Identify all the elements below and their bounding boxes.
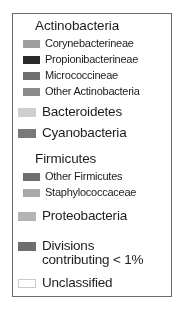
legend-list: ActinobacteriaCorynebacterineaePropionib… <box>13 14 171 296</box>
legend-item-corynebacterineae[interactable]: Corynebacterineae <box>13 37 171 50</box>
legend-swatch-staphylococcaceae <box>23 189 40 197</box>
legend-item-firmicutes[interactable]: Firmicutes <box>13 151 171 166</box>
legend-label-firmicutes: Firmicutes <box>35 151 96 166</box>
legend-label-staphylococcaceae: Staphylococcaceae <box>45 186 136 199</box>
legend-item-cyanobacteria[interactable]: Cyanobacteria <box>13 126 171 140</box>
legend-swatch-proteobacteria <box>18 212 36 221</box>
legend-label-cyanobacteria: Cyanobacteria <box>42 126 126 140</box>
legend-label-divisions-under-1pct-line2: contributing < 1% <box>42 253 143 267</box>
legend-label-propionibacterineae: Propionibacterineae <box>45 53 138 66</box>
legend-swatch-micrococcineae <box>23 72 40 80</box>
legend-label-other-actinobacteria: Other Actinobacteria <box>45 85 140 98</box>
legend-label-divisions-under-1pct: Divisionscontributing < 1% <box>42 239 143 267</box>
legend-label-proteobacteria: Proteobacteria <box>42 209 127 223</box>
legend-item-micrococcineae[interactable]: Micrococcineae <box>13 69 171 82</box>
legend-swatch-bacteroidetes <box>18 108 36 117</box>
legend-item-proteobacteria[interactable]: Proteobacteria <box>13 209 171 223</box>
legend-swatch-propionibacterineae <box>23 56 40 64</box>
legend-label-corynebacterineae: Corynebacterineae <box>45 37 134 50</box>
legend-label-other-firmicutes: Other Firmicutes <box>45 170 122 183</box>
legend-item-unclassified[interactable]: Unclassified <box>13 276 171 290</box>
legend-label-actinobacteria: Actinobacteria <box>35 18 119 33</box>
legend-item-bacteroidetes[interactable]: Bacteroidetes <box>13 105 171 119</box>
legend-label-divisions-under-1pct-line1: Divisions <box>42 238 94 253</box>
legend-swatch-corynebacterineae <box>23 40 40 48</box>
legend-item-other-actinobacteria[interactable]: Other Actinobacteria <box>13 85 171 98</box>
legend-swatch-divisions-under-1pct <box>18 242 36 251</box>
legend-item-actinobacteria[interactable]: Actinobacteria <box>13 18 171 33</box>
legend-label-unclassified: Unclassified <box>42 276 112 290</box>
legend-swatch-other-actinobacteria <box>23 88 40 96</box>
legend-item-staphylococcaceae[interactable]: Staphylococcaceae <box>13 186 171 199</box>
legend-swatch-other-firmicutes <box>23 173 40 181</box>
legend-box: ActinobacteriaCorynebacterineaePropionib… <box>12 13 172 297</box>
legend-label-bacteroidetes: Bacteroidetes <box>42 105 122 119</box>
legend-swatch-cyanobacteria <box>18 129 36 138</box>
legend-item-propionibacterineae[interactable]: Propionibacterineae <box>13 53 171 66</box>
legend-item-other-firmicutes[interactable]: Other Firmicutes <box>13 170 171 183</box>
legend-swatch-unclassified <box>18 279 36 288</box>
legend-label-micrococcineae: Micrococcineae <box>45 69 118 82</box>
legend-item-divisions-under-1pct[interactable]: Divisionscontributing < 1% <box>13 239 171 267</box>
